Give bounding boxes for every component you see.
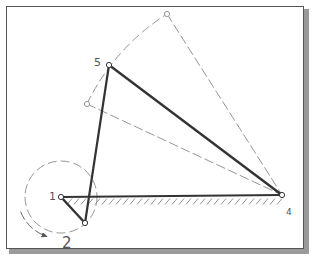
hatch-mark (214, 199, 219, 205)
hatch-mark (130, 199, 135, 205)
rotation-direction-arrow (21, 212, 47, 237)
hatch-mark (270, 199, 275, 205)
hatch-mark (186, 199, 191, 205)
hatch-mark (109, 199, 114, 205)
label-5: 5 (94, 56, 101, 69)
hatch-mark (235, 199, 240, 205)
hatch-mark (74, 199, 79, 205)
ground-link (61, 195, 282, 197)
hatch-mark (221, 199, 226, 205)
hatch-mark (144, 199, 149, 205)
hatch-mark (249, 199, 254, 205)
joint-1-ground-pivot (58, 194, 63, 199)
rocker-link (109, 65, 282, 195)
joint-4-ground-pivot (279, 192, 284, 197)
hatch-mark (207, 199, 212, 205)
hatch-mark (116, 199, 121, 205)
hatch-mark (123, 199, 128, 205)
hatch-mark (81, 199, 86, 205)
hatch-mark (242, 199, 247, 205)
hatch-mark (137, 199, 142, 205)
hatch-mark (263, 199, 268, 205)
hatch-mark (95, 199, 100, 205)
label-1: 1 (49, 190, 56, 203)
linkage-diagram: 1 5 4 2 (0, 0, 316, 256)
label-4: 4 (286, 207, 292, 217)
hatch-mark (151, 199, 156, 205)
hatch-mark (193, 199, 198, 205)
hatch-mark (277, 199, 282, 205)
hatch-mark (179, 199, 184, 205)
hatch-mark (158, 199, 163, 205)
joint-5-coupler (106, 62, 111, 67)
hatch-mark (172, 199, 177, 205)
joint-rocker-alt-top (164, 11, 169, 16)
hatch-mark (256, 199, 261, 205)
joint-crank-end (82, 220, 87, 225)
hatch-mark (102, 199, 107, 205)
hatch-mark (228, 199, 233, 205)
ground-hatching (67, 199, 282, 205)
joint-rocker-alt-low (84, 101, 89, 106)
hatch-mark (165, 199, 170, 205)
crank-link (61, 197, 85, 223)
label-2-rotation: 2 (62, 234, 72, 252)
hatch-mark (200, 199, 205, 205)
